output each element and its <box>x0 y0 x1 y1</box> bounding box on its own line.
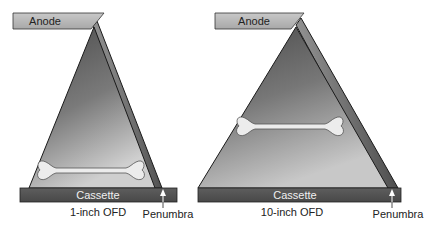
cassette: Cassette <box>20 188 177 202</box>
diagram-10-inch-ofd: Anode Cassette 10-inch OFD Penumbra <box>198 13 424 220</box>
cassette-label: Cassette <box>273 189 316 201</box>
anode: Anode <box>13 13 104 29</box>
cassette: Cassette <box>198 188 401 202</box>
diagram-1-inch-ofd: Anode Cassette 1-inch OFD Penumbra <box>13 13 194 220</box>
cassette-label: Cassette <box>76 189 119 201</box>
anode-label: Anode <box>29 15 61 27</box>
x-ray-beam <box>198 27 388 188</box>
ofd-label: 10-inch OFD <box>261 206 323 218</box>
penumbra-label: Penumbra <box>373 208 425 220</box>
anode: Anode <box>215 13 304 29</box>
ofd-label: 1-inch OFD <box>70 206 126 218</box>
penumbra-label: Penumbra <box>143 208 195 220</box>
anode-label: Anode <box>238 15 270 27</box>
ofd-penumbra-diagram: Anode Cassette 1-inch OFD Penumbra Anode <box>0 0 430 228</box>
